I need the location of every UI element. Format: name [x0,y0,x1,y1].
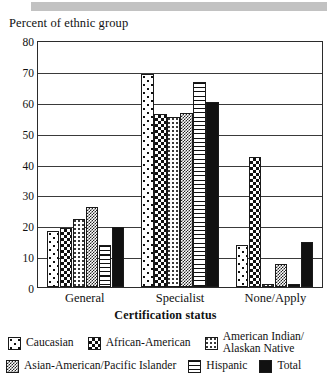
bar [47,231,60,287]
legend-label: Caucasian [26,337,74,349]
header-band [31,2,327,11]
bar-group [133,42,228,287]
legend-label: Hispanic [206,360,247,372]
legend-row-1: CaucasianAfrican-AmericanAmerican Indian… [0,330,331,356]
y-axis-tick-label: 0 [28,283,34,295]
category-label: None/Apply [228,291,323,306]
legend: CaucasianAfrican-AmericanAmerican Indian… [0,330,331,376]
legend-item: Asian-American/Pacific Islander [6,360,176,373]
legend-swatch-icon [8,337,21,350]
bar-group [227,42,322,287]
bar [249,157,262,287]
bar [86,207,99,287]
y-axis-title: Percent of ethnic group [9,16,128,31]
category-label: Specialist [132,291,227,306]
bar [141,74,154,287]
y-axis-tick-label: 70 [23,67,35,79]
y-axis-tick-label: 10 [23,252,35,264]
legend-item: African-American [88,337,191,350]
legend-label: African-American [106,337,191,349]
legend-item: Total [259,360,301,373]
legend-swatch-icon [188,360,201,373]
bar [112,227,125,287]
category-label: General [37,291,132,306]
x-axis-title: Certification status [0,308,331,323]
chart-page: Percent of ethnic group 0102030405060708… [0,0,331,381]
y-axis-tick-label: 80 [23,36,35,48]
bar [262,284,275,287]
legend-label: Asian-American/Pacific Islander [24,360,176,372]
y-axis-tick-label: 20 [23,221,35,233]
bar [236,245,249,287]
bar [99,245,112,287]
bar-groups [38,42,322,287]
legend-swatch-icon [6,360,19,373]
legend-item: American Indian/Alaskan Native [205,331,304,355]
y-axis-tick-label: 60 [23,98,35,110]
bar [167,117,180,287]
bar [301,242,314,287]
y-axis-tick-label: 40 [23,160,35,172]
legend-swatch-icon [259,360,272,373]
bar [288,284,301,287]
legend-swatch-icon [88,337,101,350]
legend-item: Hispanic [188,360,247,373]
legend-label: American Indian/Alaskan Native [223,331,304,355]
bar [180,113,193,287]
y-axis-tick-label: 30 [23,190,35,202]
bar [60,228,73,287]
plot-area: 01020304050607080 [37,41,323,288]
legend-label: Total [277,360,301,372]
bar [206,102,219,287]
y-axis-tick-label: 50 [23,129,35,141]
legend-swatch-icon [205,337,218,350]
bar-group [38,42,133,287]
legend-item: Caucasian [8,337,74,350]
bar [193,82,206,287]
legend-row-2: Asian-American/Pacific IslanderHispanicT… [0,356,331,376]
bar [73,219,86,287]
category-labels: GeneralSpecialistNone/Apply [37,291,323,306]
bar [154,114,167,287]
bar [275,264,288,287]
